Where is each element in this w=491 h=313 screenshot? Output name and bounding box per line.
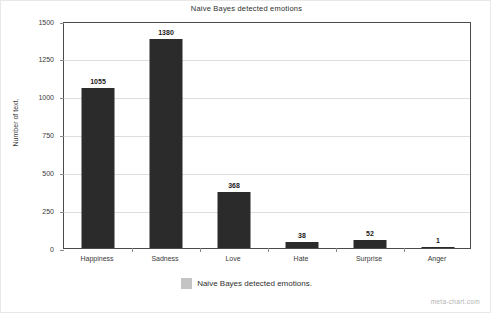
bar-value-label: 1380 — [158, 29, 174, 36]
legend-label: Naive Bayes detected emotions. — [197, 279, 312, 288]
y-axis-tick-label: 1000 — [14, 94, 54, 101]
x-axis-tick-label: Surprise — [335, 255, 403, 262]
chart-legend: Naive Bayes detected emotions. — [1, 278, 491, 289]
x-axis-tick-label: Anger — [403, 255, 471, 262]
bar-slot: 1055 — [64, 23, 132, 248]
bar-slot: 52 — [336, 23, 404, 248]
bar[interactable] — [218, 192, 251, 248]
bar-value-label: 1055 — [90, 78, 106, 85]
y-axis-tick-label: 1500 — [14, 19, 54, 26]
x-axis-tick-label: Love — [199, 255, 267, 262]
y-axis-tick-label: 750 — [14, 132, 54, 139]
y-axis-tick-mark — [60, 250, 64, 251]
bar[interactable] — [150, 39, 183, 248]
chart-canvas: Naive Bayes detected emotions Number of … — [0, 0, 491, 313]
bar-slot: 368 — [200, 23, 268, 248]
legend-swatch-icon — [181, 278, 192, 289]
x-axis-tick-mark — [200, 248, 201, 252]
y-axis-tick-label: 500 — [14, 170, 54, 177]
bar-value-label: 52 — [366, 230, 374, 237]
x-axis-tick-mark — [336, 248, 337, 252]
chart-title: Naive Bayes detected emotions — [1, 4, 491, 13]
bar[interactable] — [354, 240, 387, 248]
bar-value-label: 38 — [298, 232, 306, 239]
bar-slot: 1 — [404, 23, 472, 248]
x-axis-tick-label: Hate — [267, 255, 335, 262]
y-axis-tick-label: 1250 — [14, 56, 54, 63]
bar-value-label: 1 — [436, 237, 440, 244]
bar-slot: 38 — [268, 23, 336, 248]
bar-slot: 1380 — [132, 23, 200, 248]
y-axis-tick-label: 250 — [14, 208, 54, 215]
y-axis-tick-label: 0 — [14, 246, 54, 253]
bar-value-label: 368 — [228, 182, 240, 189]
x-axis-tick-mark — [404, 248, 405, 252]
x-axis-tick-mark — [268, 248, 269, 252]
x-axis-tick-mark — [132, 248, 133, 252]
bar[interactable] — [82, 88, 115, 248]
plot-area: 0250500750100012501500 1055138036838521 — [63, 22, 471, 249]
x-axis-tick-label: Sadness — [131, 255, 199, 262]
bar[interactable] — [422, 247, 455, 249]
x-axis-tick-label: Happiness — [63, 255, 131, 262]
bar[interactable] — [286, 242, 319, 248]
watermark: meta-chart.com — [431, 298, 480, 305]
